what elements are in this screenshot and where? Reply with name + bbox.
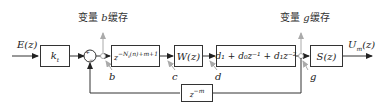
summer-sign-plus: + <box>85 49 90 55</box>
summer-sign-minus: − <box>89 57 94 63</box>
w-label: W(z) <box>177 51 200 62</box>
variable-delay-block: z−Nt(n)+m+1 <box>111 45 160 67</box>
polynomial-label: d₁ + d₀z⁻¹ + d₁z⁻² <box>216 51 297 61</box>
input-label: E(z) <box>17 40 37 50</box>
w-block: W(z) <box>174 45 203 67</box>
feedback-delay-label: z−m <box>190 87 205 99</box>
cache-g-annotation: 变量 g缓存 <box>280 13 330 23</box>
node-c-label: c <box>172 72 178 82</box>
s-label: S(z) <box>317 51 337 62</box>
block-diagram: E(z) kt + − z−Nt(n)+m+1 W(z) d₁ + d₀z⁻¹ … <box>0 0 384 112</box>
variable-delay-label: z−Nt(n)+m+1 <box>114 50 158 62</box>
node-g-label: g <box>310 72 316 82</box>
node-b-label: b <box>109 72 115 82</box>
polynomial-block: d₁ + d₀z⁻¹ + d₁z⁻² <box>216 45 296 67</box>
cache-b-annotation: 变量 b缓存 <box>78 13 128 23</box>
gain-block: kt <box>40 45 70 67</box>
node-d-label: d <box>215 72 221 82</box>
gain-label: kt <box>51 50 59 63</box>
feedback-delay-block: z−m <box>181 84 213 102</box>
s-block: S(z) <box>310 45 343 67</box>
output-label: Um(z) <box>348 40 375 52</box>
